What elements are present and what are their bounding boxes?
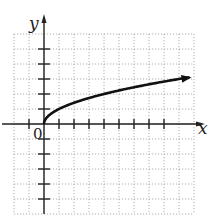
curve-arrow-icon (181, 75, 192, 83)
square-root-graph: x y 0 (0, 0, 219, 215)
x-axis-label: x (198, 118, 208, 138)
y-axis-label: y (28, 13, 39, 33)
function-curve (44, 77, 190, 124)
y-axis-arrow-icon (42, 14, 47, 23)
origin-label: 0 (33, 125, 43, 143)
